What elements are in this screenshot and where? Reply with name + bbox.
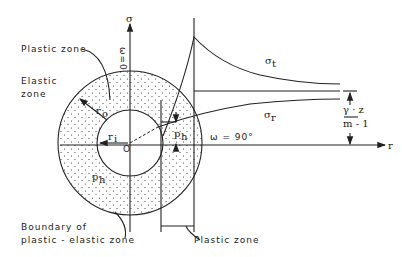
origin-label: O bbox=[123, 144, 131, 154]
svg-text:r: r bbox=[271, 112, 276, 123]
sigma-axis-label: σ bbox=[126, 13, 133, 24]
plastic-zone-bottom-label: Plastic zone bbox=[194, 235, 259, 245]
r-axis-label: r bbox=[388, 140, 393, 151]
svg-text:p: p bbox=[92, 171, 98, 182]
sigma-r-label: σ bbox=[264, 109, 271, 120]
stress-diagram: Plastic zone Elastic zone Boundary of pl… bbox=[0, 0, 402, 257]
dashed-radius bbox=[130, 127, 158, 143]
svg-text:r: r bbox=[96, 105, 101, 116]
svg-text:p: p bbox=[174, 128, 180, 139]
svg-text:zone: zone bbox=[21, 89, 46, 99]
sigma-t-label: σ bbox=[265, 55, 272, 66]
omega-ninety-label: ω = 90° bbox=[210, 132, 254, 142]
svg-text:h: h bbox=[181, 131, 188, 142]
boundary-label: Boundary of bbox=[21, 222, 87, 232]
svg-text:r: r bbox=[108, 131, 113, 142]
elastic-zone-label: Elastic bbox=[21, 76, 57, 86]
plastic-zone-label: Plastic zone bbox=[21, 44, 86, 54]
svg-text:t: t bbox=[272, 58, 276, 69]
svg-text:h: h bbox=[99, 174, 106, 185]
fraction-denominator: m - 1 bbox=[343, 118, 369, 129]
omega-zero-label: ω=0 bbox=[118, 47, 128, 71]
svg-text:o: o bbox=[102, 108, 108, 119]
fraction-numerator: γ · z bbox=[343, 104, 364, 115]
svg-text:i: i bbox=[114, 133, 117, 144]
svg-text:plastic - elastic zone: plastic - elastic zone bbox=[21, 235, 135, 245]
